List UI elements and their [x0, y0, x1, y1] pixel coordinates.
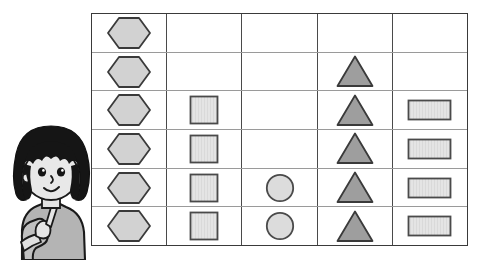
triangle-icon [318, 53, 392, 91]
pictograph-cell-triangle-r2[interactable] [318, 53, 393, 91]
pictograph-cell-circle-r5[interactable] [242, 169, 317, 207]
pictograph-cell-rectangle-r6[interactable] [393, 207, 467, 245]
hexagon-icon [92, 130, 166, 168]
pictograph-cell-hexagon-r4[interactable] [92, 130, 167, 168]
pictograph-cell-hexagon-r2[interactable] [92, 53, 167, 91]
pictograph-cell-circle-r1[interactable] [242, 14, 317, 52]
pictograph-cell-hexagon-r5[interactable] [92, 169, 167, 207]
pictograph-cell-triangle-r4[interactable] [318, 130, 393, 168]
triangle-icon [318, 169, 392, 207]
right-eye [57, 167, 65, 176]
circle-icon [242, 207, 316, 245]
left-eye-highlight [42, 169, 45, 172]
pictograph-row [92, 14, 467, 53]
hexagon-icon [92, 14, 166, 52]
hexagon-icon [92, 207, 166, 245]
pictograph-row [92, 207, 467, 245]
pictograph-cell-rectangle-r2[interactable] [393, 53, 467, 91]
pictograph-cell-circle-r4[interactable] [242, 130, 317, 168]
left-eye [38, 167, 46, 176]
circle-icon [242, 169, 316, 207]
pictograph-cell-rectangle-r5[interactable] [393, 169, 467, 207]
pictograph-cell-square-r3[interactable] [167, 91, 242, 129]
pictograph-cell-square-r6[interactable] [167, 207, 242, 245]
triangle-icon [318, 130, 392, 168]
square-icon [167, 91, 241, 129]
pictograph-row [92, 53, 467, 92]
pictograph-cell-hexagon-r6[interactable] [92, 207, 167, 245]
pictograph-cell-square-r4[interactable] [167, 130, 242, 168]
pictograph-cell-square-r5[interactable] [167, 169, 242, 207]
pictograph-cell-triangle-r6[interactable] [318, 207, 393, 245]
rectangle-icon [393, 91, 467, 129]
pictograph-row [92, 130, 467, 169]
pictograph-cell-triangle-r3[interactable] [318, 91, 393, 129]
pictograph-cell-rectangle-r3[interactable] [393, 91, 467, 129]
square-icon [167, 130, 241, 168]
shape-pictograph-grid [91, 13, 468, 246]
right-eye-highlight [61, 169, 64, 172]
pictograph-cell-triangle-r1[interactable] [318, 14, 393, 52]
pictograph-cell-hexagon-r3[interactable] [92, 91, 167, 129]
pictograph-cell-square-r1[interactable] [167, 14, 242, 52]
pictograph-row [92, 91, 467, 130]
pictograph-cell-triangle-r5[interactable] [318, 169, 393, 207]
hexagon-icon [92, 53, 166, 91]
square-icon [167, 207, 241, 245]
rectangle-icon [393, 130, 467, 168]
pictograph-cell-circle-r6[interactable] [242, 207, 317, 245]
cartoon-girl-svg [2, 112, 94, 260]
pictograph-row [92, 169, 467, 208]
pictograph-cell-rectangle-r1[interactable] [393, 14, 467, 52]
hexagon-icon [92, 169, 166, 207]
triangle-icon [318, 91, 392, 129]
rectangle-icon [393, 169, 467, 207]
pictograph-cell-square-r2[interactable] [167, 53, 242, 91]
hexagon-icon [92, 91, 166, 129]
cartoon-girl-illustration [2, 112, 94, 260]
pictograph-cell-circle-r2[interactable] [242, 53, 317, 91]
pictograph-cell-rectangle-r4[interactable] [393, 130, 467, 168]
pictograph-cell-circle-r3[interactable] [242, 91, 317, 129]
rectangle-icon [393, 207, 467, 245]
square-icon [167, 169, 241, 207]
triangle-icon [318, 207, 392, 245]
pictograph-cell-hexagon-r1[interactable] [92, 14, 167, 52]
